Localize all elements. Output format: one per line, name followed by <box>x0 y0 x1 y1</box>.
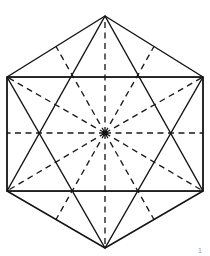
corner-page-mark: 1 <box>198 247 202 254</box>
hexagon-star-diagram: 1 <box>0 0 210 256</box>
ray-to-upper-right-vertex <box>105 77 203 133</box>
center-point <box>102 130 107 135</box>
figure-canvas: 1 <box>0 0 210 256</box>
ray-to-upper-left-vertex <box>7 77 105 133</box>
